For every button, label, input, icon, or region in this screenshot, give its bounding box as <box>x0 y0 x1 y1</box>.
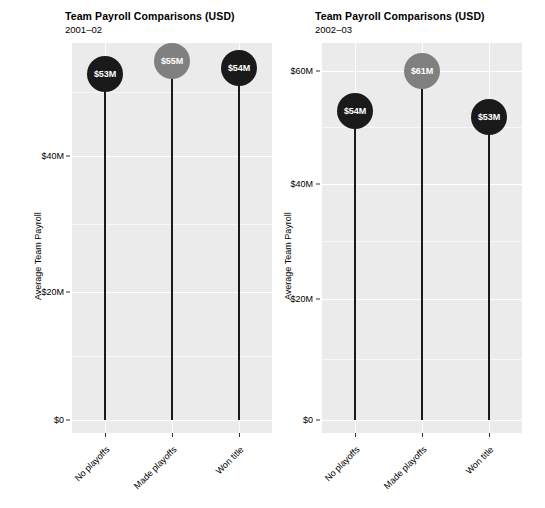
left-marker-made-playoffs[interactable]: $55M <box>154 43 190 79</box>
right-stem-made-playoffs <box>421 71 423 420</box>
left-stem-no-playoffs <box>104 74 106 420</box>
left-plot-inner <box>72 43 272 433</box>
right-x-tick-mark-1 <box>355 433 356 437</box>
right-stem-won-title <box>488 117 490 420</box>
left-chart-title: Team Payroll Comparisons (USD) <box>65 10 275 23</box>
right-chart-title: Team Payroll Comparisons (USD) <box>315 10 525 23</box>
left-plot-area: $53M $55M $54M <box>72 43 272 433</box>
left-stem-made-playoffs <box>171 61 173 420</box>
left-x-tick-mark-2 <box>172 433 173 437</box>
right-marker-made-playoffs[interactable]: $61M <box>404 53 440 89</box>
left-marker-won-title[interactable]: $54M <box>221 50 257 86</box>
left-y-tick-mark-20m <box>66 292 70 293</box>
left-chart-subtitle: 2001–02 <box>65 23 275 36</box>
left-y-tick-label-0: $0 <box>8 415 64 425</box>
right-stem-no-playoffs <box>354 111 356 420</box>
right-y-tick-label-20m: $20M <box>257 294 313 304</box>
right-x-tick-label-no-playoffs: No playoffs <box>263 444 362 508</box>
left-y-tick-label-20m: $20M <box>8 287 64 297</box>
left-x-tick-mark-1 <box>105 433 106 437</box>
left-chart-title-group: Team Payroll Comparisons (USD) 2001–02 <box>65 10 275 36</box>
left-x-tick-label-no-playoffs: No playoffs <box>13 444 112 508</box>
left-y-tick-mark-40m <box>66 156 70 157</box>
left-y-tick-mark-0 <box>66 420 70 421</box>
right-y-tick-label-60m: $60M <box>257 66 313 76</box>
right-chart-subtitle: 2002–03 <box>315 23 525 36</box>
right-x-tick-mark-3 <box>489 433 490 437</box>
right-marker-no-playoffs[interactable]: $54M <box>337 93 373 129</box>
right-chart-title-group: Team Payroll Comparisons (USD) 2002–03 <box>315 10 525 36</box>
right-y-tick-mark-20m <box>316 299 320 300</box>
left-y-tick-label-40m: $40M <box>8 151 64 161</box>
chart-panel-2001-02: Team Payroll Comparisons (USD) 2001–02 A… <box>0 0 272 508</box>
left-stem-won-title <box>238 68 240 420</box>
left-marker-no-playoffs[interactable]: $53M <box>87 56 123 92</box>
right-y-axis-title: Average Team Payroll <box>283 212 293 300</box>
chart-panel-2002-03: Team Payroll Comparisons (USD) 2002–03 A… <box>273 0 545 508</box>
right-plot-area: $54M $61M $53M <box>322 43 522 433</box>
right-y-tick-label-0: $0 <box>257 415 313 425</box>
right-marker-won-title[interactable]: $53M <box>471 99 507 135</box>
right-y-tick-mark-60m <box>316 71 320 72</box>
left-x-tick-mark-3 <box>239 433 240 437</box>
chart-page: Team Payroll Comparisons (USD) 2001–02 A… <box>0 0 545 508</box>
right-x-tick-mark-2 <box>422 433 423 437</box>
right-y-tick-label-40m: $40M <box>257 179 313 189</box>
right-y-tick-mark-0 <box>316 420 320 421</box>
right-y-tick-mark-40m <box>316 184 320 185</box>
